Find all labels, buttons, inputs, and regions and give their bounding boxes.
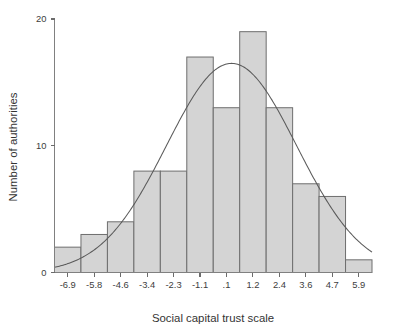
histogram-bar	[213, 108, 239, 273]
x-tick-label: -4.6	[113, 279, 129, 290]
x-tick-label: -1.1	[192, 279, 208, 290]
y-axis-ticks: 01020	[36, 13, 54, 278]
x-tick-label: 3.6	[299, 279, 312, 290]
x-tick-label: 5.9	[352, 279, 365, 290]
histogram-bar	[346, 260, 372, 273]
x-tick-label: .1	[223, 279, 231, 290]
histogram-figure: 01020 -6.9-5.8-4.6-3.4-2.3-1.1.11.22.43.…	[0, 0, 408, 334]
histogram-bar	[160, 171, 186, 272]
x-tick-label: -3.4	[139, 279, 155, 290]
histogram-bar	[107, 222, 133, 273]
y-axis-title: Number of authorities	[7, 92, 19, 201]
histogram-bar	[293, 184, 319, 273]
y-tick-label: 0	[41, 267, 46, 278]
histogram-bar	[187, 57, 213, 272]
histogram-bar	[319, 196, 345, 272]
x-tick-label: 1.2	[246, 279, 259, 290]
bars-group	[55, 32, 373, 273]
x-tick-label: 2.4	[273, 279, 286, 290]
histogram-bar	[81, 234, 107, 272]
histogram-bar	[134, 171, 160, 272]
histogram-bar	[240, 32, 266, 273]
x-tick-label: -2.3	[165, 279, 181, 290]
x-tick-label: 4.7	[326, 279, 339, 290]
y-tick-label: 20	[36, 13, 46, 24]
histogram-bar	[266, 108, 292, 273]
x-axis-ticks: -6.9-5.8-4.6-3.4-2.3-1.1.11.22.43.64.75.…	[60, 273, 366, 290]
y-tick-label: 10	[36, 140, 46, 151]
chart-canvas: 01020 -6.9-5.8-4.6-3.4-2.3-1.1.11.22.43.…	[0, 0, 408, 334]
x-tick-label: -5.8	[86, 279, 102, 290]
x-tick-label: -6.9	[60, 279, 76, 290]
x-axis-title: Social capital trust scale	[152, 312, 274, 324]
